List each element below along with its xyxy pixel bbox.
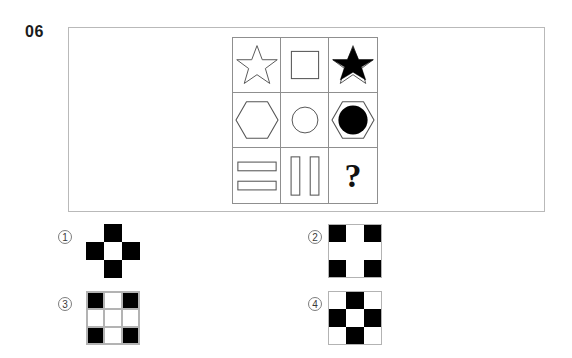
option-4-tile bbox=[329, 327, 346, 344]
stimulus-frame: ? bbox=[68, 27, 545, 212]
option-2-tile bbox=[329, 225, 346, 242]
option-4-tile bbox=[346, 309, 363, 326]
matrix-grid: ? bbox=[232, 37, 378, 204]
option-2-pattern[interactable] bbox=[328, 224, 382, 278]
circle-outline-icon bbox=[286, 101, 324, 139]
matrix-cell-r2c1 bbox=[233, 93, 281, 148]
option-4-tile bbox=[364, 309, 381, 326]
matrix-cell-r2c3 bbox=[329, 93, 377, 148]
matrix-cell-r1c3 bbox=[329, 38, 377, 93]
option-3-tile bbox=[122, 327, 139, 344]
option-1-tile bbox=[122, 224, 140, 242]
matrix-cell-r1c2 bbox=[281, 38, 329, 93]
option-2-tile bbox=[346, 242, 363, 259]
option-4-pattern[interactable] bbox=[328, 291, 382, 345]
option-3-tile bbox=[104, 292, 121, 309]
option-3-tile bbox=[104, 309, 121, 326]
option-4-tile bbox=[346, 327, 363, 344]
option-3-tile bbox=[87, 327, 104, 344]
option-2-number: 2 bbox=[308, 230, 322, 244]
option-2-tile bbox=[329, 260, 346, 277]
option-1-tile bbox=[104, 260, 122, 278]
star-outline-with-black-star-icon bbox=[331, 43, 375, 87]
option-4-tile bbox=[329, 292, 346, 309]
matrix-cell-r2c2 bbox=[281, 93, 329, 148]
option-1-tile bbox=[86, 224, 104, 242]
hexagon-outline-with-black-circle-icon bbox=[330, 99, 376, 141]
option-1-tile bbox=[122, 260, 140, 278]
matrix-cell-r3c1 bbox=[233, 148, 281, 203]
question-number: 06 bbox=[25, 23, 44, 41]
two-vertical-rectangles-icon bbox=[285, 154, 325, 198]
two-horizontal-rectangles-icon bbox=[235, 156, 279, 196]
option-2-tile bbox=[364, 260, 381, 277]
option-3-tile bbox=[87, 309, 104, 326]
option-1-tile bbox=[122, 242, 140, 260]
matrix-cell-r3c2 bbox=[281, 148, 329, 203]
option-4-tile bbox=[329, 309, 346, 326]
option-2-tile bbox=[364, 225, 381, 242]
option-4-number: 4 bbox=[308, 297, 322, 311]
option-3-tile bbox=[122, 309, 139, 326]
option-3-tile bbox=[87, 292, 104, 309]
matrix-cell-r1c1 bbox=[233, 38, 281, 93]
option-1-tile bbox=[104, 242, 122, 260]
matrix-cell-r3c3: ? bbox=[329, 148, 377, 203]
option-2-tile bbox=[329, 242, 346, 259]
square-outline-icon bbox=[285, 45, 325, 85]
option-1-pattern[interactable] bbox=[86, 224, 140, 278]
option-1-tile bbox=[86, 260, 104, 278]
option-4-tile bbox=[346, 292, 363, 309]
star-outline-icon bbox=[235, 43, 279, 87]
option-1-tile bbox=[104, 224, 122, 242]
option-2-tile bbox=[346, 260, 363, 277]
question-mark: ? bbox=[345, 159, 362, 193]
option-2-tile bbox=[364, 242, 381, 259]
option-3-tile bbox=[104, 327, 121, 344]
option-3-tile bbox=[122, 292, 139, 309]
option-1-number: 1 bbox=[58, 230, 72, 244]
option-4-tile bbox=[364, 327, 381, 344]
option-1-tile bbox=[86, 242, 104, 260]
option-4-tile bbox=[364, 292, 381, 309]
option-2-tile bbox=[346, 225, 363, 242]
hexagon-outline-icon bbox=[234, 99, 280, 141]
option-3-pattern[interactable] bbox=[86, 291, 140, 345]
option-3-number: 3 bbox=[58, 297, 72, 311]
